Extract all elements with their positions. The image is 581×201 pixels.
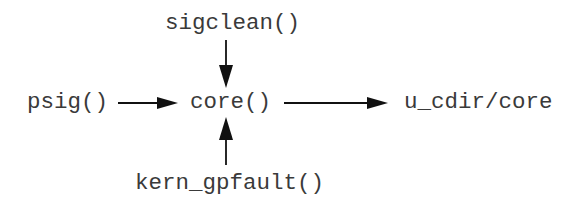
arrow-sigclean-to-core [219, 40, 233, 88]
call-flow-diagram: sigclean() psig() core() u_cdir/core ker… [0, 0, 581, 201]
node-core: core() [190, 91, 271, 114]
node-sigclean: sigclean() [165, 12, 300, 35]
node-psig: psig() [27, 91, 108, 114]
arrow-core-to-output [284, 97, 388, 109]
node-output-u-cdir-core: u_cdir/core [404, 91, 553, 114]
node-kern-gpfault: kern_gpfault() [135, 172, 324, 195]
arrow-psig-to-core [118, 97, 178, 109]
arrow-kern-gpfault-to-core [219, 117, 233, 165]
